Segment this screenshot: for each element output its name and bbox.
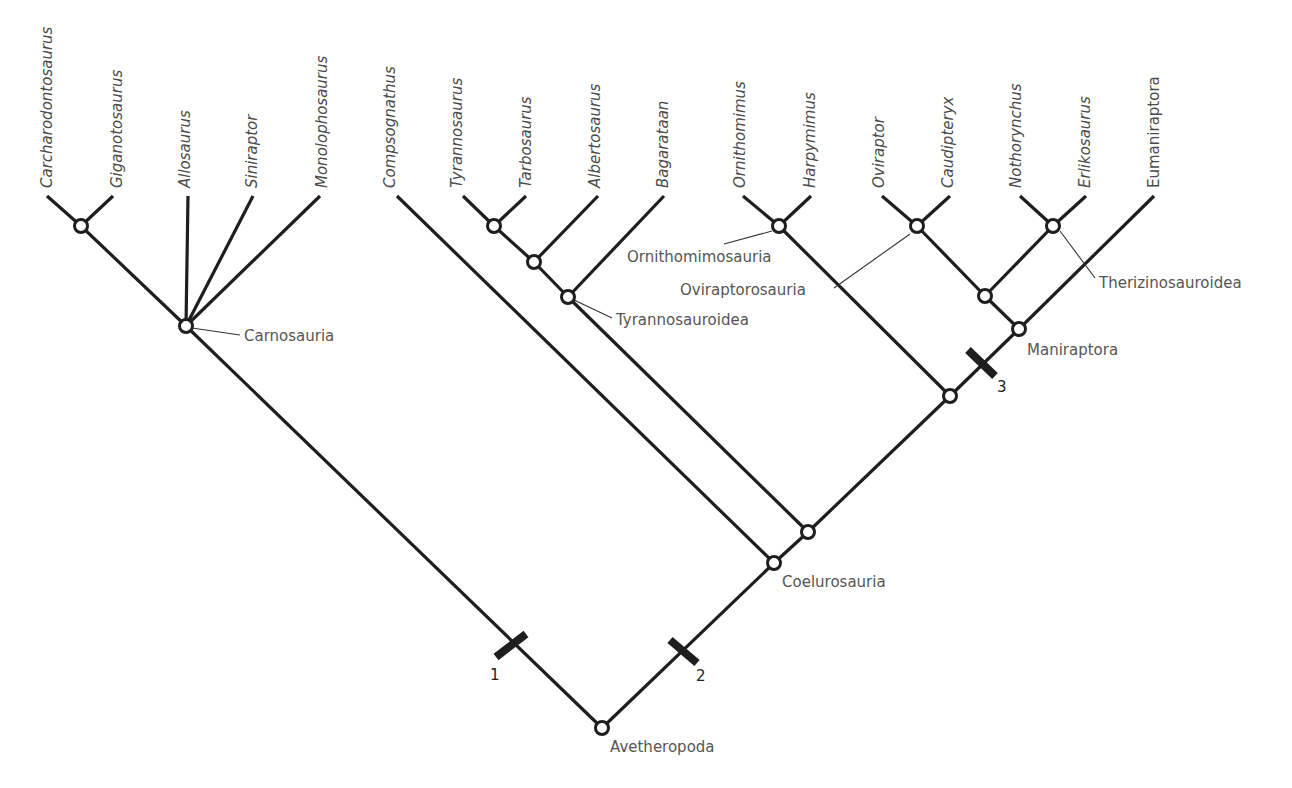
nodes <box>75 220 1060 735</box>
taxon-label: Carcharodontosaurus <box>38 26 56 188</box>
taxon-label: Tarbosaurus <box>517 96 535 188</box>
branch-albertosaurus <box>534 196 598 262</box>
clade-label-coelurosauria: Coelurosauria <box>782 573 886 591</box>
leader-ornithomimosauria <box>724 231 772 244</box>
character-mark-3: 3 <box>997 378 1007 396</box>
taxon-label: Giganotosaurus <box>108 70 126 188</box>
branch-oviraptorosauria <box>917 226 985 296</box>
branch-avetheropoda-coelurosauria <box>602 563 774 728</box>
clade-labels: Carnosauria Tyrannosauroidea Ornithomimo… <box>244 248 1242 756</box>
branch-ornithomimosauria <box>779 226 950 396</box>
branch-avetheropoda-carnosauria <box>186 326 602 728</box>
taxon-label: Erlikosaurus <box>1076 96 1094 188</box>
node-maniraptora <box>1013 323 1026 336</box>
taxon-label: Ornithomimus <box>731 81 749 188</box>
node-ornithomimosauria <box>773 220 786 233</box>
branch-allosaurus <box>186 196 188 326</box>
taxon-label: Bagarataan <box>654 101 672 188</box>
node-maniraptoriformes <box>944 390 957 403</box>
node-therizinosauroidea <box>1047 220 1060 233</box>
node-coelurosauria <box>768 557 781 570</box>
branch-therizinosauroidea <box>985 226 1053 296</box>
taxon-labels: Carcharodontosaurus Giganotosaurus Allos… <box>38 26 1163 189</box>
branch-carnosauria-carcharodontosaurid <box>81 226 186 326</box>
taxon-label: Siniraptor <box>243 114 261 188</box>
node-carcharodontosaurid <box>75 220 88 233</box>
leader-oviraptorosauria <box>834 234 910 288</box>
clade-label-tyrannosauroidea: Tyrannosauroidea <box>615 311 749 329</box>
character-mark-2: 2 <box>696 667 706 685</box>
clade-label-maniraptora: Maniraptora <box>1027 341 1118 359</box>
character-mark-labels: 1 2 3 <box>490 378 1007 685</box>
node-oviraptorosauria <box>911 220 924 233</box>
branch-to-maniraptoriform <box>808 396 950 532</box>
clade-label-carnosauria: Carnosauria <box>244 327 334 345</box>
branches <box>47 196 1154 728</box>
taxon-label: Oviraptor <box>870 116 888 188</box>
leader-carnosauria <box>192 328 240 335</box>
node-ovi-theri <box>979 290 992 303</box>
cladogram: Carcharodontosaurus Giganotosaurus Allos… <box>0 0 1292 788</box>
node-carnosauria <box>180 320 193 333</box>
clade-label-ornithomimosauria: Ornithomimosauria <box>627 248 772 266</box>
branch-eumaniraptora <box>1019 196 1154 329</box>
taxon-label: Eumaniraptora <box>1145 76 1163 188</box>
taxon-label: Tyrannosaurus <box>448 78 466 188</box>
node-avetheropoda <box>596 722 609 735</box>
node-tyrannosauroidea <box>562 291 575 304</box>
branch-monolophosaurus <box>186 196 320 326</box>
character-bar-1 <box>496 634 526 657</box>
character-bars <box>496 350 995 663</box>
character-bar-3 <box>968 350 995 376</box>
clade-label-avetheropoda: Avetheropoda <box>610 738 715 756</box>
taxon-label: Albertosaurus <box>586 83 604 189</box>
branch-tyrannosauroidea <box>568 297 808 532</box>
branch-tyrannosaurini <box>494 226 534 262</box>
node-tyrannosaurini <box>488 220 501 233</box>
taxon-label: Caudipteryx <box>939 96 957 188</box>
node-coelurosauria-inner <box>802 526 815 539</box>
taxon-label: Monolophosaurus <box>313 55 331 188</box>
clade-label-oviraptorosauria: Oviraptorosauria <box>680 281 806 299</box>
branch-siniraptor <box>186 196 253 326</box>
character-mark-1: 1 <box>490 666 500 684</box>
taxon-label: Harpymimus <box>801 92 819 188</box>
taxon-label: Compsognathus <box>381 66 399 188</box>
clade-label-therizinosauroidea: Therizinosauroidea <box>1098 274 1242 292</box>
taxon-label: Allosaurus <box>176 110 194 189</box>
node-tyrannosaurid <box>528 256 541 269</box>
taxon-label: Nothorynchus <box>1007 83 1025 188</box>
